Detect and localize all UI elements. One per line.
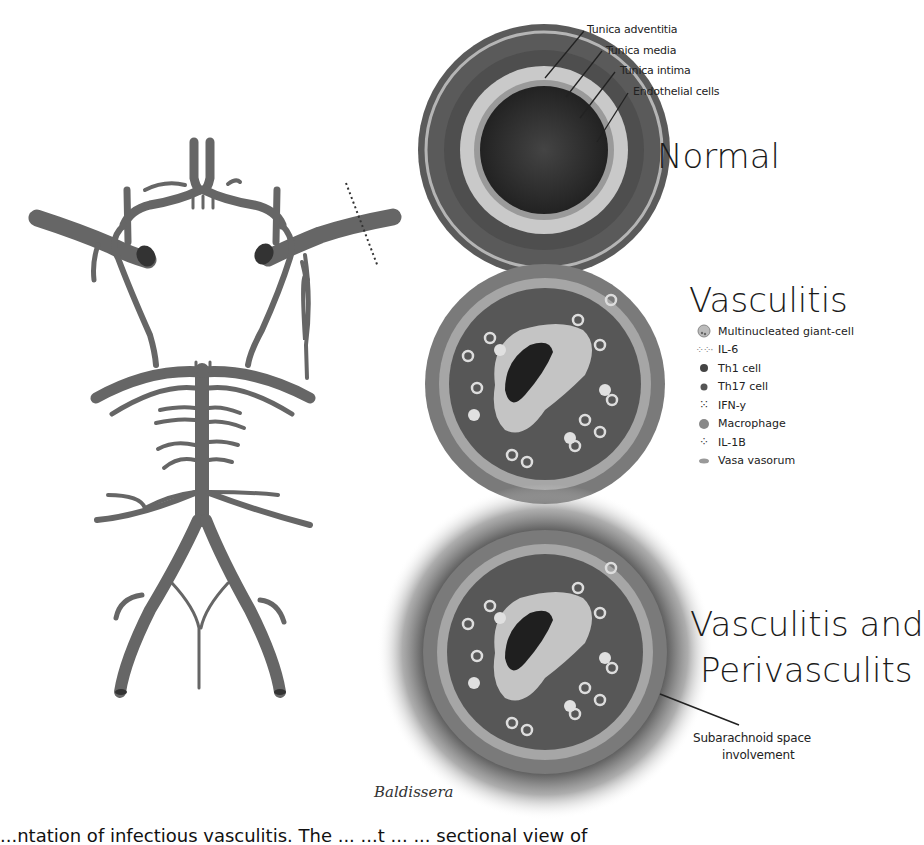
legend-item: ⁘⁘· IL-6	[690, 341, 916, 360]
legend-item: ⁘ IL-1B	[690, 433, 916, 452]
vasculitis-cross-section	[425, 264, 665, 504]
il6-dots-icon: ⁘⁘·	[690, 342, 718, 358]
label-tunica-intima: Tunica intima	[620, 64, 691, 77]
perivasculitis-title-line1: Vasculitis and	[690, 604, 924, 644]
vasculitis-title: Vasculitis	[689, 280, 848, 320]
legend-item: ⁙ IFN-y	[690, 396, 916, 415]
legend-item: Th17 cell	[690, 378, 916, 397]
legend-item: Multinucleated giant-cell	[690, 322, 916, 341]
perivasculitis-title-line2: Perivasculits	[700, 650, 912, 690]
label-endothelial-cells: Endothelial cells	[633, 85, 719, 98]
th17-cell-icon	[690, 379, 718, 395]
macrophage-icon	[690, 416, 718, 432]
label-tunica-media: Tunica media	[606, 44, 676, 57]
subarachnoid-annotation-line1: Subarachnoid space	[693, 731, 811, 745]
th1-cell-icon	[690, 360, 718, 376]
giant-cell-icon	[690, 323, 718, 339]
subarachnoid-annotation-line2: involvement	[722, 748, 794, 762]
circle-of-willis-diagram	[37, 142, 393, 692]
ifn-dots-icon: ⁙	[690, 397, 718, 413]
vasculitis-legend: Multinucleated giant-cell ⁘⁘· IL-6 Th1 c…	[690, 322, 916, 470]
legend-item: Th1 cell	[690, 359, 916, 378]
perivasculitis-cross-section	[377, 484, 713, 820]
figure-caption-fragment: ...ntation of infectious vasculitis. The…	[0, 826, 916, 845]
label-tunica-adventitia: Tunica adventitia	[587, 23, 677, 36]
legend-item: Vasa vasorum	[690, 452, 916, 471]
artist-signature: Baldissera	[374, 783, 454, 801]
il1b-dots-icon: ⁘	[690, 434, 718, 450]
legend-item: Macrophage	[690, 415, 916, 434]
normal-title: Normal	[657, 136, 780, 176]
vasa-vasorum-icon	[690, 453, 718, 469]
normal-artery-cross-section	[418, 24, 670, 276]
